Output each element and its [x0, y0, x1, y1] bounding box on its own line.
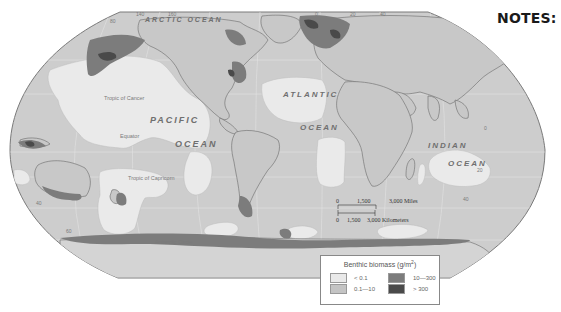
scale-km-1500: 1,500	[347, 217, 361, 223]
grid-label-40-left: 40	[36, 200, 42, 206]
scale-km-3000: 3,000 Kilometers	[367, 217, 409, 223]
legend-title: Benthic biomass (g/m2)	[321, 259, 439, 268]
legend-label-10-300: 10—300	[413, 275, 436, 281]
antarctic-circle-label: Antarctic Circle	[155, 239, 192, 245]
legend-label-gt-300: > 300	[413, 286, 428, 292]
arctic-ocean-label: ARCTIC OCEAN	[144, 16, 223, 23]
legend-swatch-lt-0-1	[330, 273, 347, 283]
legend-label-0-1-10: 0.1—10	[354, 286, 375, 292]
scale-miles-3000: 3,000 Miles	[389, 198, 418, 204]
legend-title-text: Benthic biomass (g/m	[344, 261, 411, 268]
grid-label-0-right: 0	[484, 125, 487, 131]
scale-miles-0: 0	[336, 198, 339, 204]
legend-title-close: )	[414, 261, 416, 268]
legend: Benthic biomass (g/m2) < 0.1 0.1—10 10—3…	[320, 255, 440, 305]
tropic-of-capricorn-label: Tropic of Capricorn	[128, 175, 175, 181]
grid-label-20-right: 20	[477, 167, 483, 173]
atlantic-label: ATLANTIC	[282, 90, 338, 99]
legend-label-lt-0-1: < 0.1	[354, 275, 368, 281]
equator-label: Equator	[120, 133, 139, 139]
pacific-ocean-label: OCEAN	[175, 139, 218, 149]
tropic-of-cancer-label: Tropic of Cancer	[104, 95, 145, 101]
notes-title: NOTES:	[497, 10, 557, 26]
scale-miles-1500: 1,500	[357, 198, 371, 204]
atlantic-ocean-label: OCEAN	[300, 123, 339, 132]
world-map: ARCTIC OCEAN PACIFIC OCEAN ATLANTIC OCEA…	[0, 0, 561, 312]
legend-swatch-10-300	[388, 273, 405, 283]
pacific-label: PACIFIC	[150, 115, 199, 125]
scale-km-0: 0	[336, 217, 339, 223]
grid-label-top-80: 80	[110, 18, 116, 24]
legend-swatch-0-1-10	[330, 284, 347, 294]
indian-label: INDIAN	[428, 141, 468, 150]
grid-label-40-right: 40	[463, 196, 469, 202]
grid-label-60-left: 60	[66, 228, 72, 234]
legend-swatch-gt-300	[388, 284, 405, 294]
